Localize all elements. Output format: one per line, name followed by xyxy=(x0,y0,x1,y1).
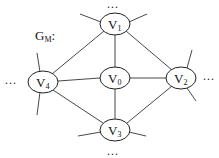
edge-v2-v3 xyxy=(127,86,172,123)
graph-diagram: GM: V1 V4 V0 V2 V3 ... ... ... ... xyxy=(0,0,219,158)
node-v1: V1 xyxy=(100,13,130,35)
edge-v4-v0 xyxy=(58,78,100,81)
graph-label: GM: xyxy=(35,28,55,44)
edge-v1-v2 xyxy=(126,31,172,70)
edge-v1-v4 xyxy=(52,31,104,74)
ellipsis-left: ... xyxy=(5,73,17,87)
node-v2: V2 xyxy=(166,67,196,89)
node-v0: V0 xyxy=(100,67,130,89)
ellipsis-bottom: ... xyxy=(107,144,119,158)
ellipsis-right: ... xyxy=(203,69,215,83)
ellipsis-top: ... xyxy=(107,0,119,11)
node-v4: V4 xyxy=(28,71,58,93)
edge-v4-v3 xyxy=(53,90,103,123)
node-v3: V3 xyxy=(100,119,130,141)
